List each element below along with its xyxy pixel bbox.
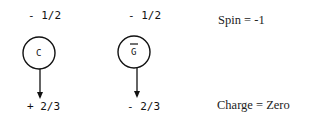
arrow-head-c <box>37 92 43 99</box>
particle-label-c: C <box>36 48 41 58</box>
spin-label-g: - 1/2 <box>128 9 161 22</box>
spin-label-c: - 1/2 <box>28 9 61 22</box>
particle-label-g: G <box>131 47 136 57</box>
spin-annotation: Spin = -1 <box>218 13 265 28</box>
charge-label-c: + 2/3 <box>27 100 60 113</box>
charge-annotation: Charge = Zero <box>217 98 290 113</box>
arrow-head-g <box>134 91 140 98</box>
charge-label-g: - 2/3 <box>127 100 160 113</box>
